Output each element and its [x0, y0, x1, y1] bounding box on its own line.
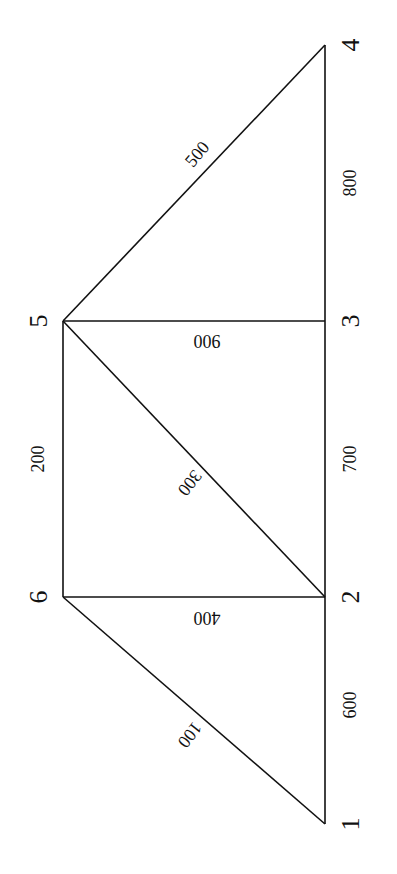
node-label-6: 6 — [24, 591, 53, 604]
member-labels-layer: 100200300400500600700800900 — [28, 137, 360, 752]
member-300 — [63, 321, 325, 597]
member-label-500: 500 — [181, 137, 214, 171]
member-label-900: 900 — [194, 331, 221, 351]
node-label-1: 1 — [336, 818, 365, 831]
member-500 — [63, 45, 325, 321]
member-100 — [63, 597, 325, 824]
member-label-700: 700 — [340, 446, 360, 473]
node-label-2: 2 — [336, 591, 365, 604]
member-label-600: 600 — [340, 692, 360, 719]
member-label-200: 200 — [28, 446, 48, 473]
member-label-800: 800 — [340, 170, 360, 197]
truss-diagram: 100200300400500600700800900 123456 — [0, 0, 397, 874]
node-label-4: 4 — [336, 39, 365, 52]
member-label-400: 400 — [194, 608, 221, 628]
member-label-100: 100 — [174, 718, 206, 752]
member-label-300: 300 — [174, 466, 206, 500]
node-label-5: 5 — [24, 315, 53, 328]
node-label-3: 3 — [336, 315, 365, 328]
